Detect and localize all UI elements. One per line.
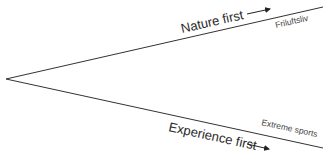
nature-first-label: Nature first xyxy=(179,7,245,36)
friluftsliv-label: Friluftsliv xyxy=(274,13,310,30)
divergence-diagram: Nature first Friluftsliv Experience firs… xyxy=(0,0,331,159)
upper-arrow-icon xyxy=(247,9,270,14)
extreme-sports-label: Extreme sports xyxy=(261,117,319,139)
lower-branch-line xyxy=(6,79,323,148)
upper-branch-line xyxy=(6,7,323,79)
